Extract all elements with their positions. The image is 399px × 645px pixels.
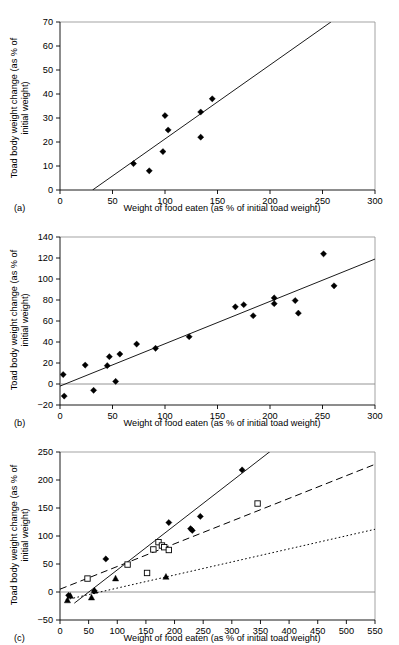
x-tick-label: 300 bbox=[367, 196, 382, 206]
trendline-dotted bbox=[66, 529, 375, 600]
x-tick-label: 300 bbox=[367, 411, 382, 421]
y-axis-label-line1: Toad body weight change (as % of bbox=[9, 37, 19, 178]
plot-frame bbox=[60, 237, 375, 405]
x-axis-label: Weight of food eaten (as % of initial to… bbox=[124, 203, 321, 213]
marker-diamond bbox=[271, 301, 277, 307]
panel-c-y-axis-title: Toad body weight change (as % of initial… bbox=[9, 464, 30, 605]
marker-diamond bbox=[198, 109, 204, 115]
marker-diamond bbox=[292, 297, 298, 303]
trendline-solid bbox=[74, 449, 273, 603]
y-tick-label: 20 bbox=[43, 358, 53, 368]
y-tick-label: 0 bbox=[48, 379, 53, 389]
y-tick-label: 100 bbox=[38, 531, 53, 541]
marker-square bbox=[125, 562, 130, 567]
panel-a: Toad body weight change (as % of initial… bbox=[0, 0, 399, 215]
marker-diamond bbox=[103, 556, 109, 562]
y-tick-label: 0 bbox=[48, 185, 53, 195]
marker-diamond bbox=[134, 341, 140, 347]
marker-diamond bbox=[130, 161, 136, 167]
figure-three-panel-scatter: Toad body weight change (as % of initial… bbox=[0, 0, 399, 645]
marker-square bbox=[144, 570, 149, 575]
marker-diamond bbox=[209, 96, 215, 102]
panel-b: Toad body weight change (as % of initial… bbox=[0, 215, 399, 430]
y-tick-label: 10 bbox=[43, 161, 53, 171]
y-tick-label: −20 bbox=[37, 400, 53, 410]
plot-frame bbox=[60, 22, 375, 190]
trendlines bbox=[60, 449, 375, 603]
marker-diamond bbox=[197, 513, 203, 519]
y-tick-label: 70 bbox=[43, 17, 53, 27]
panel-label-a: (a) bbox=[14, 203, 25, 213]
y-tick-label: −50 bbox=[37, 615, 53, 625]
marker-square bbox=[166, 547, 171, 552]
panel-b-y-axis-title: Toad body weight change (as % of initial… bbox=[9, 249, 30, 390]
y-axis-label-line2: initial weight) bbox=[20, 293, 30, 346]
marker-square bbox=[85, 576, 90, 581]
data-points bbox=[130, 96, 215, 174]
marker-diamond bbox=[166, 519, 172, 525]
y-tick-label: 150 bbox=[38, 503, 53, 513]
marker-diamond bbox=[198, 134, 204, 140]
y-tick-label: 30 bbox=[43, 113, 53, 123]
marker-triangle bbox=[88, 594, 94, 600]
marker-diamond bbox=[113, 378, 119, 384]
y-axis-label-line1: Toad body weight change (as % of bbox=[9, 464, 19, 605]
y-tick-label: 80 bbox=[43, 295, 53, 305]
y-tick-label: 140 bbox=[38, 232, 53, 242]
panel-label-b: (b) bbox=[14, 418, 25, 428]
y-tick-label: 60 bbox=[43, 41, 53, 51]
y-tick-label: 50 bbox=[43, 65, 53, 75]
x-axis-label: Weight of food eaten (as % of initial to… bbox=[124, 418, 321, 428]
marker-diamond bbox=[295, 310, 301, 316]
x-tick-label: 500 bbox=[339, 626, 354, 636]
panel-c-canvas: −500501001502002500501001502002503003504… bbox=[37, 447, 382, 636]
marker-square bbox=[255, 501, 260, 506]
y-tick-label: 100 bbox=[38, 274, 53, 284]
marker-diamond bbox=[239, 467, 245, 473]
y-tick-label: 0 bbox=[48, 587, 53, 597]
marker-diamond bbox=[162, 113, 168, 119]
panel-c-plot: Toad body weight change (as % of initial… bbox=[0, 430, 399, 645]
y-axis-label-line2: initial weight) bbox=[20, 508, 30, 561]
y-tick-label: 40 bbox=[43, 337, 53, 347]
plot-frame bbox=[60, 452, 375, 620]
marker-diamond bbox=[82, 362, 88, 368]
x-tick-label: 0 bbox=[57, 626, 62, 636]
y-tick-label: 200 bbox=[38, 475, 53, 485]
panel-a-plot: Toad body weight change (as % of initial… bbox=[0, 0, 399, 215]
panel-b-plot: Toad body weight change (as % of initial… bbox=[0, 215, 399, 430]
marker-diamond bbox=[271, 295, 277, 301]
marker-triangle bbox=[112, 575, 118, 581]
marker-diamond bbox=[250, 313, 256, 319]
y-axis-label-line2: initial weight) bbox=[20, 81, 30, 134]
y-tick-label: 40 bbox=[43, 89, 53, 99]
marker-diamond bbox=[160, 149, 166, 155]
panel-c: Toad body weight change (as % of initial… bbox=[0, 430, 399, 645]
marker-diamond bbox=[106, 354, 112, 360]
panel-a-canvas: 010203040506070050100150200250300 bbox=[43, 17, 383, 206]
marker-diamond bbox=[232, 304, 238, 310]
data-points bbox=[60, 251, 337, 399]
marker-diamond bbox=[117, 351, 123, 357]
trendlines bbox=[93, 22, 331, 190]
trendline-dashed bbox=[60, 464, 375, 589]
y-tick-label: 120 bbox=[38, 253, 53, 263]
marker-diamond bbox=[331, 283, 337, 289]
marker-diamond bbox=[152, 345, 158, 351]
trendline-solid bbox=[93, 22, 331, 190]
marker-diamond bbox=[241, 302, 247, 308]
marker-diamond bbox=[60, 371, 66, 377]
y-tick-label: 250 bbox=[38, 447, 53, 457]
marker-square bbox=[151, 547, 156, 552]
x-axis-label: Weight of food eaten (as % of initial to… bbox=[124, 633, 321, 643]
marker-diamond bbox=[91, 387, 97, 393]
marker-diamond bbox=[165, 127, 171, 133]
x-tick-label: 50 bbox=[107, 411, 117, 421]
marker-diamond bbox=[146, 168, 152, 174]
x-tick-label: 550 bbox=[367, 626, 382, 636]
x-tick-label: 0 bbox=[57, 411, 62, 421]
y-tick-label: 60 bbox=[43, 316, 53, 326]
marker-diamond bbox=[61, 393, 67, 399]
x-tick-label: 50 bbox=[107, 196, 117, 206]
y-axis-label-line1: Toad body weight change (as % of bbox=[9, 249, 19, 390]
